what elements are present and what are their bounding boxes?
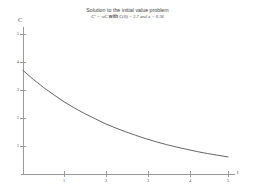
- chart-figure: Solution to the initial value problem C'…: [0, 0, 255, 191]
- decay-curve-line: [23, 70, 228, 157]
- chart-plot-svg: [0, 0, 255, 191]
